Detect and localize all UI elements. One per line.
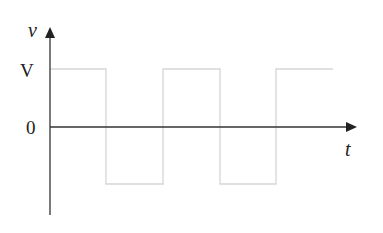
square-wave-diagram: v V 0 t bbox=[0, 0, 383, 233]
tick-label-high: V bbox=[20, 60, 34, 81]
x-axis-arrow-icon bbox=[346, 122, 357, 132]
tick-label-zero: 0 bbox=[26, 117, 36, 138]
y-axis-arrow-icon bbox=[45, 27, 55, 38]
x-axis-label: t bbox=[345, 138, 351, 160]
y-axis-label: v bbox=[28, 19, 37, 41]
